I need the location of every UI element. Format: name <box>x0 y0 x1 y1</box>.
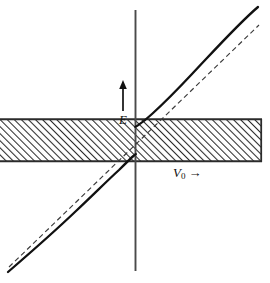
up-arrow-icon <box>112 78 134 112</box>
energy-axis-label-text: E <box>119 112 127 127</box>
perturbed-curve-upper-branch <box>135 7 258 127</box>
figure-container: E V0→ <box>0 0 270 283</box>
right-arrow-icon: → <box>185 165 201 180</box>
plot-canvas <box>0 0 270 283</box>
energy-axis-label-group: E <box>112 78 134 126</box>
potential-axis-label-group: V0→ <box>173 166 201 181</box>
potential-axis-label-symbol: V <box>173 165 181 180</box>
perturbed-curve-lower-branch <box>8 154 136 272</box>
